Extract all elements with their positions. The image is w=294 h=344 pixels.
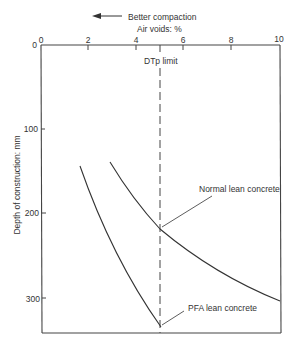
y-tick-300: 300 (26, 294, 40, 304)
x-tick-0: 0 (39, 35, 44, 45)
dtp-limit-label: DTp limit (144, 56, 178, 66)
pfa-lean-concrete-curve (80, 166, 161, 327)
normal-lean-concrete-curve (110, 162, 280, 301)
chart: Better compaction Air voids: % 0 2 4 6 8… (0, 0, 294, 344)
y-tick-200: 200 (25, 208, 39, 218)
y-axis-title: Depth of construction: mm (12, 135, 22, 234)
x-axis-title: Air voids: % (137, 24, 182, 34)
normal-leader-line (162, 196, 212, 227)
pfa-leader-line (162, 311, 184, 325)
better-compaction-arrow-icon (92, 13, 122, 19)
better-compaction-label: Better compaction (128, 12, 197, 22)
x-tick-6: 6 (181, 35, 186, 45)
y-tick-100: 100 (24, 124, 38, 134)
y-tick-0: 0 (32, 40, 37, 50)
normal-lean-concrete-label: Normal lean concrete (199, 184, 280, 194)
x-tick-10: 10 (274, 34, 284, 44)
x-tick-8: 8 (229, 35, 234, 45)
x-tick-4: 4 (134, 35, 139, 45)
x-tick-2: 2 (86, 35, 91, 45)
pfa-lean-concrete-label: PFA lean concrete (188, 303, 257, 313)
